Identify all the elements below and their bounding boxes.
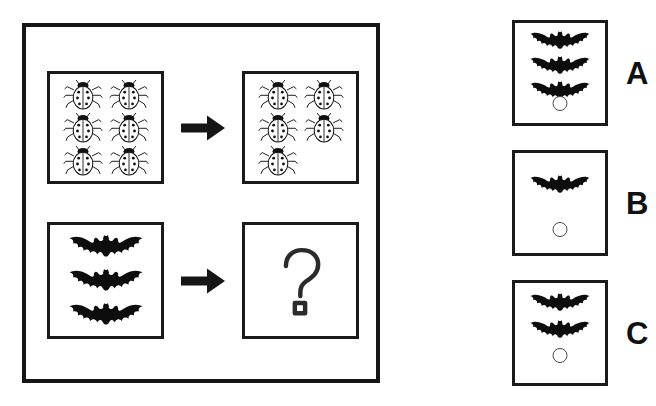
answer-option-c-letter: C xyxy=(626,318,648,349)
bat-icon xyxy=(523,29,597,53)
bat-group-two xyxy=(523,291,597,383)
cell-result-ladybugs xyxy=(242,71,359,184)
answer-option-a-letter: A xyxy=(626,58,648,89)
ladybug-icon xyxy=(109,78,149,111)
cell-result-unknown xyxy=(242,222,359,339)
bat-icon xyxy=(60,267,152,295)
bat-icon xyxy=(523,173,597,197)
bat-icon xyxy=(523,291,597,315)
ladybug-icon xyxy=(304,111,344,144)
answer-option-c-radio-bubble[interactable] xyxy=(553,348,568,363)
ladybug-icon xyxy=(258,78,298,111)
cell-result-unknown-content xyxy=(245,225,356,336)
bat-icon xyxy=(60,233,152,261)
bat-group-one xyxy=(523,173,597,253)
answer-option-a-radio-bubble[interactable] xyxy=(553,96,568,111)
answer-option-b[interactable]: B xyxy=(512,150,648,256)
cell-source-bats xyxy=(47,222,164,339)
answer-option-c-box[interactable] xyxy=(512,280,608,386)
bat-group-three xyxy=(60,233,152,329)
bat-icon xyxy=(60,301,152,329)
cell-source-bats-content xyxy=(50,225,161,336)
question-mark-icon xyxy=(277,245,325,317)
ladybug-icon xyxy=(109,111,149,144)
ladybug-icon xyxy=(258,144,298,177)
ladybug-icon xyxy=(304,78,344,111)
answer-option-b-radio-bubble[interactable] xyxy=(553,222,568,237)
bat-icon xyxy=(523,318,597,342)
cell-source-ladybugs-content xyxy=(50,74,161,181)
cell-source-ladybugs xyxy=(47,71,164,184)
ladybug-icon xyxy=(258,111,298,144)
ladybug-icon xyxy=(109,144,149,177)
ladybug-icon xyxy=(63,144,103,177)
analogy-puzzle-panel xyxy=(22,23,380,383)
arrow-right-icon xyxy=(180,113,226,143)
answer-option-a-box[interactable] xyxy=(512,20,608,126)
cell-result-ladybugs-content xyxy=(245,74,356,181)
arrow-right-icon xyxy=(180,266,226,296)
answer-option-b-letter: B xyxy=(626,188,648,219)
answer-option-c[interactable]: C xyxy=(512,280,648,386)
answer-option-a[interactable]: A xyxy=(512,20,648,126)
ladybug-group-five xyxy=(255,78,347,177)
ladybug-icon xyxy=(63,111,103,144)
answer-option-b-box[interactable] xyxy=(512,150,608,256)
ladybug-icon xyxy=(63,78,103,111)
bat-icon xyxy=(523,54,597,78)
ladybug-group-six xyxy=(60,78,152,177)
